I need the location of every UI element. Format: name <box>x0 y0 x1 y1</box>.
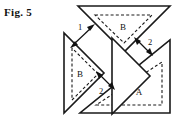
dimension-2-bottom-label: 2 <box>99 86 103 96</box>
left-triangle-label-b: B <box>77 69 83 79</box>
dimension-1-label: 1 <box>78 22 82 32</box>
dimension-2-right-group: 2 <box>134 37 153 56</box>
dimension-1-group: 1 <box>70 22 95 48</box>
dimension-2-right-label: 2 <box>148 37 152 47</box>
dimension-2-right-arrowhead-end <box>146 48 153 56</box>
top-triangle-label-b: B <box>120 22 126 32</box>
figure-drawing: B B A 1 2 2 <box>0 0 182 129</box>
figure-container: Fig. 5 B B A 1 2 <box>0 0 182 129</box>
